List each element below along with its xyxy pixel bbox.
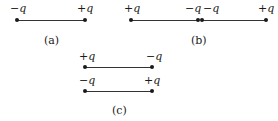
dipole-rod xyxy=(85,67,152,68)
charge-label-negative: −q xyxy=(10,3,26,14)
dipole-rod xyxy=(202,20,265,21)
caption-b: (b) xyxy=(191,35,207,46)
charge-label: −q xyxy=(185,3,201,14)
charge-point xyxy=(83,89,87,93)
caption-c: (c) xyxy=(112,105,127,116)
charge-label: −q xyxy=(146,51,162,62)
charge-point xyxy=(150,89,154,93)
charge-point xyxy=(15,18,19,22)
charge-label: −q xyxy=(203,3,219,14)
charge-point xyxy=(83,18,87,22)
charge-label: +q xyxy=(124,3,140,14)
dipole-rod xyxy=(17,20,85,21)
charge-point xyxy=(129,18,133,22)
charge-point xyxy=(264,18,268,22)
charge-label: +q xyxy=(258,3,274,14)
dipole-rod xyxy=(131,20,198,21)
charge-point xyxy=(150,65,154,69)
dipole-rod xyxy=(85,91,152,92)
charge-point xyxy=(83,65,87,69)
charge-label-positive: +q xyxy=(77,3,93,14)
caption-a: (a) xyxy=(44,35,59,46)
charge-point xyxy=(200,18,204,22)
charge-label: +q xyxy=(79,51,95,62)
charge-label: +q xyxy=(144,75,160,86)
charge-label: −q xyxy=(79,75,95,86)
